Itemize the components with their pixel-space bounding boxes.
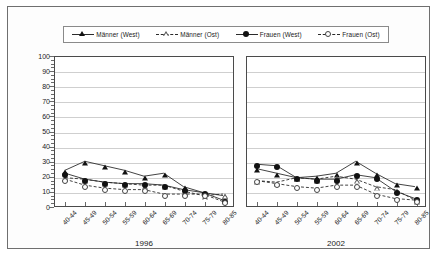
x-tick-label: 80-85 xyxy=(413,209,430,226)
y-minor-tick xyxy=(51,143,54,144)
data-point xyxy=(414,186,420,191)
legend-label: Frauen (West) xyxy=(260,31,302,38)
x-tick-label: 65-69 xyxy=(161,209,178,226)
y-minor-tick xyxy=(51,162,54,163)
y-minor-tick xyxy=(51,56,54,57)
data-point xyxy=(274,182,280,188)
y-minor-tick xyxy=(51,154,54,155)
y-minor-tick xyxy=(51,71,54,72)
x-tick-label: 45-49 xyxy=(81,209,98,226)
x-tick-label: 55-59 xyxy=(313,209,330,226)
plot-panel-1996 xyxy=(54,56,234,207)
x-tick-label: 40-44 xyxy=(61,209,78,226)
data-point xyxy=(354,160,360,165)
data-point xyxy=(314,187,320,193)
data-point xyxy=(294,185,300,191)
legend-label: Frauen (Ost) xyxy=(342,31,379,38)
y-tick-label: 20 xyxy=(24,173,50,180)
y-minor-tick xyxy=(51,184,54,185)
y-minor-tick xyxy=(51,135,54,136)
data-point xyxy=(162,193,168,199)
data-point xyxy=(394,183,400,188)
legend-symbol-icon xyxy=(156,30,178,39)
x-tick-label: 60-64 xyxy=(333,209,350,226)
data-point xyxy=(274,164,280,170)
data-point xyxy=(102,165,108,170)
x-tick-label: 75-79 xyxy=(201,209,218,226)
y-tick-label: 60 xyxy=(24,113,50,120)
y-tick-label: 100 xyxy=(24,53,50,60)
data-point xyxy=(394,190,400,196)
y-tick-label: 50 xyxy=(24,128,50,135)
data-point xyxy=(414,199,420,205)
y-minor-tick xyxy=(51,128,54,129)
x-tick-label: 80-85 xyxy=(221,209,238,226)
y-minor-tick xyxy=(51,67,54,68)
legend-label: Männer (West) xyxy=(96,31,139,38)
data-point xyxy=(182,193,188,199)
y-minor-tick xyxy=(51,207,54,208)
y-minor-tick xyxy=(51,169,54,170)
x-tick-label: 45-49 xyxy=(273,209,290,226)
y-minor-tick xyxy=(51,199,54,200)
y-minor-tick xyxy=(51,165,54,166)
legend-item-3: Frauen (Ost) xyxy=(318,30,379,39)
data-point xyxy=(374,186,380,191)
x-tick-label: 60-64 xyxy=(141,209,158,226)
data-point xyxy=(62,178,68,184)
data-point xyxy=(222,193,228,198)
y-minor-tick xyxy=(51,109,54,110)
x-tick-label: 50-54 xyxy=(293,209,310,226)
y-minor-tick xyxy=(51,158,54,159)
data-point xyxy=(374,176,380,182)
legend-symbol-icon xyxy=(318,30,340,39)
data-point xyxy=(394,197,400,203)
legend-item-0: Männer (West) xyxy=(72,30,139,39)
y-minor-tick xyxy=(51,94,54,95)
x-tick-label: 70-74 xyxy=(181,209,198,226)
chart-frame: Männer (West)Männer (Ost)Frauen (West)Fr… xyxy=(7,6,430,249)
x-tick-label: 70-74 xyxy=(373,209,390,226)
legend-symbol-icon xyxy=(236,30,258,39)
y-minor-tick xyxy=(51,120,54,121)
data-point xyxy=(254,179,260,185)
legend-item-2: Frauen (West) xyxy=(236,30,302,39)
y-minor-tick xyxy=(51,86,54,87)
legend-symbol-icon xyxy=(72,30,94,39)
data-point xyxy=(202,193,208,199)
data-point xyxy=(354,173,360,179)
y-minor-tick xyxy=(51,177,54,178)
y-minor-tick xyxy=(51,181,54,182)
data-point xyxy=(334,184,340,190)
y-tick-label: 40 xyxy=(24,143,50,150)
x-tick-label: 75-79 xyxy=(393,209,410,226)
chart-legend: Männer (West)Männer (Ost)Frauen (West)Fr… xyxy=(63,26,389,43)
y-minor-tick xyxy=(51,113,54,114)
data-point xyxy=(142,188,148,194)
data-point xyxy=(354,184,360,190)
data-point xyxy=(82,160,88,165)
panel-title-2002: 2002 xyxy=(246,239,426,248)
y-minor-tick xyxy=(51,75,54,76)
x-tick-label: 55-59 xyxy=(121,209,138,226)
data-point xyxy=(122,188,128,194)
x-tick-label: 40-44 xyxy=(253,209,270,226)
y-tick-label: 0 xyxy=(24,204,50,211)
data-point xyxy=(274,172,280,177)
data-point xyxy=(222,200,228,206)
y-minor-tick xyxy=(51,139,54,140)
y-minor-tick xyxy=(51,150,54,151)
y-minor-tick xyxy=(51,192,54,193)
y-minor-tick xyxy=(51,101,54,102)
y-minor-tick xyxy=(51,116,54,117)
data-point xyxy=(162,184,168,190)
x-tick-label: 65-69 xyxy=(353,209,370,226)
y-minor-tick xyxy=(51,203,54,204)
data-point xyxy=(254,163,260,169)
y-minor-tick xyxy=(51,64,54,65)
data-point xyxy=(294,176,300,182)
y-minor-tick xyxy=(51,105,54,106)
y-minor-tick xyxy=(51,98,54,99)
data-point xyxy=(314,178,320,184)
data-point xyxy=(142,175,148,180)
